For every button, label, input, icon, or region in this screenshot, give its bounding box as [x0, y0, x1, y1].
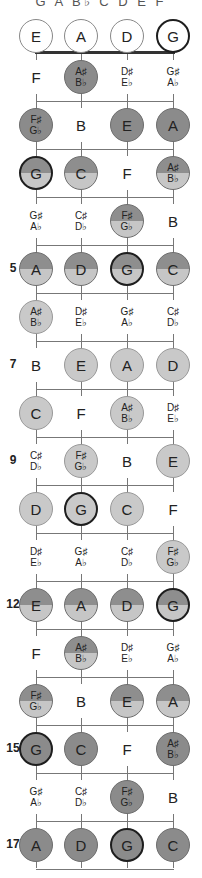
- scale-note-dot-fret5-string2: D: [64, 252, 98, 286]
- sharp-name: G♯: [30, 210, 43, 221]
- sharp-name: D♯: [75, 306, 87, 317]
- note-label: A: [168, 118, 178, 133]
- note-label: F: [122, 166, 131, 181]
- sharp-name: D♯: [30, 546, 42, 557]
- scale-note-dot-fret5-string1: A: [19, 252, 53, 286]
- flat-name: A♭: [30, 797, 42, 808]
- fret-line-9: [36, 485, 174, 486]
- sharp-name: C♯: [75, 786, 87, 797]
- note-label: G: [30, 742, 42, 757]
- fret-line-15: [36, 773, 174, 774]
- scale-note-dot-fret10-string1: D: [19, 492, 53, 526]
- note-label: F: [122, 742, 131, 757]
- chromatic-note-fret16-string1: G♯A♭: [19, 780, 53, 814]
- flat-name: E♭: [167, 413, 179, 424]
- note-label: B: [168, 214, 178, 229]
- flat-name: G♭: [75, 461, 88, 472]
- chromatic-note-fret11-string3: C♯D♭: [110, 540, 144, 574]
- note-label: A: [76, 29, 86, 44]
- scale-note-dot-fret5-string3: G: [110, 252, 144, 286]
- note-label: E: [31, 29, 41, 44]
- note-label: D: [76, 262, 87, 277]
- note-label: C: [76, 742, 87, 757]
- flat-name: B♭: [30, 317, 42, 328]
- chromatic-note-fret6-string3: G♯A♭: [110, 300, 144, 334]
- scale-note-dot-fret2-string1: F♯G♭: [19, 108, 53, 142]
- sharp-name: C♯: [121, 546, 133, 557]
- sharp-name: F♯: [75, 450, 86, 461]
- flat-name: E♭: [75, 317, 87, 328]
- scale-note-dot-fret2-string4: A: [156, 108, 190, 142]
- sharp-name: D♯: [121, 66, 133, 77]
- note-label: A: [168, 694, 178, 709]
- note-label: A: [76, 598, 86, 613]
- fret-line-4: [36, 245, 174, 246]
- flat-name: E♭: [30, 557, 42, 568]
- scale-note-dot-fret12-string4: G: [156, 588, 190, 622]
- scale-note-dot-fret17-string2: D: [64, 828, 98, 862]
- flat-name: G♭: [121, 797, 134, 808]
- scale-note-dot-fret11-string4: F♯G♭: [156, 540, 190, 574]
- fret-line-11: [36, 581, 174, 582]
- sharp-name: F♯: [121, 210, 132, 221]
- chromatic-note-fret1-string4: G♯A♭: [156, 60, 190, 94]
- sharp-name: A♯: [75, 642, 87, 653]
- scale-note-dot-fret5-string4: C: [156, 252, 190, 286]
- flat-name: G♭: [121, 221, 134, 232]
- scale-note-dot-fret14-string4: A: [156, 684, 190, 718]
- scale-note-dot-fret15-string1: G: [19, 732, 53, 766]
- sharp-name: G♯: [167, 642, 180, 653]
- chromatic-note-fret13-string4: G♯A♭: [156, 636, 190, 670]
- scale-note-dot-fret9-string4: E: [156, 444, 190, 478]
- note-label: G: [121, 838, 133, 853]
- chromatic-note-fret8-string4: D♯E♭: [156, 396, 190, 430]
- flat-name: D♭: [75, 797, 87, 808]
- flat-name: G♭: [30, 701, 43, 712]
- scale-note-dot-fret14-string1: F♯G♭: [19, 684, 53, 718]
- chromatic-note-fret2-string2: B: [64, 108, 98, 142]
- flat-name: B♭: [121, 413, 133, 424]
- scale-note-dot-fret10-string3: C: [110, 492, 144, 526]
- flat-name: A♭: [167, 77, 179, 88]
- note-label: A: [31, 838, 41, 853]
- fret-line-14: [36, 725, 174, 726]
- scale-note-dot-fret13-string2: A♯B♭: [64, 636, 98, 670]
- flat-name: D♭: [30, 461, 42, 472]
- note-label: G: [75, 502, 87, 517]
- sharp-name: A♯: [75, 66, 87, 77]
- fret-line-16: [36, 821, 174, 822]
- scale-note-dot-fret7-string2: E: [64, 348, 98, 382]
- note-label: E: [31, 598, 41, 613]
- scale-note-dot-fret8-string3: A♯B♭: [110, 396, 144, 430]
- flat-name: D♭: [121, 557, 133, 568]
- flat-name: E♭: [121, 77, 133, 88]
- chromatic-note-fret1-string1: F: [19, 60, 53, 94]
- fret-line-2: [36, 149, 174, 150]
- chromatic-note-fret6-string4: C♯D♭: [156, 300, 190, 334]
- flat-name: D♭: [75, 221, 87, 232]
- fret-line-6: [36, 341, 174, 342]
- chromatic-note-fret4-string2: C♯D♭: [64, 204, 98, 238]
- sharp-name: A♯: [167, 162, 179, 173]
- note-label: D: [168, 358, 179, 373]
- note-label: B: [168, 790, 178, 805]
- note-label: E: [122, 694, 132, 709]
- note-label: C: [168, 838, 179, 853]
- open-string-g: G: [156, 19, 190, 53]
- chromatic-note-fret16-string2: C♯D♭: [64, 780, 98, 814]
- sharp-name: C♯: [167, 306, 179, 317]
- chromatic-note-fret15-string3: F: [110, 732, 144, 766]
- note-label: E: [168, 454, 178, 469]
- note-label: B: [122, 454, 132, 469]
- flat-name: B♭: [167, 173, 179, 184]
- sharp-name: A♯: [167, 738, 179, 749]
- note-label: E: [76, 358, 86, 373]
- sharp-name: F♯: [30, 114, 41, 125]
- scale-note-dot-fret10-string2: G: [64, 492, 98, 526]
- scale-note-dot-fret2-string3: E: [110, 108, 144, 142]
- chromatic-note-fret6-string2: D♯E♭: [64, 300, 98, 334]
- note-label: C: [168, 262, 179, 277]
- note-label: C: [122, 502, 133, 517]
- note-label: D: [31, 502, 42, 517]
- fret-line-10: [36, 533, 174, 534]
